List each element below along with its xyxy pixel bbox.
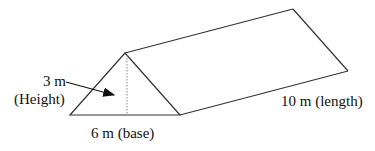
length-label: 10 m (length) (281, 93, 363, 110)
height-name-label: (Height) (14, 91, 65, 108)
prism-diagram: 3 m (Height) 6 m (base) 10 m (length) (0, 0, 375, 151)
ridge-edge (125, 9, 293, 53)
front-triangle-face (70, 53, 180, 115)
far-slope-edge (293, 9, 348, 71)
base-label: 6 m (base) (91, 125, 154, 142)
height-value-label: 3 m (43, 73, 66, 89)
